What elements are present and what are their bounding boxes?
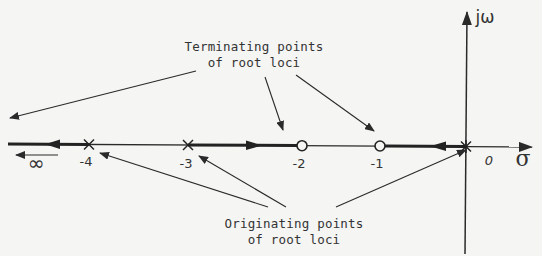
locus-segment-minus3-to-minus2: [188, 145, 297, 146]
infinity-label: ∞: [28, 151, 45, 175]
imaginary-axis-label: jω: [476, 7, 495, 27]
locus-arrow-left-infinity: [45, 140, 60, 150]
tick-label-minus3: -3: [180, 156, 193, 171]
originating-caption: Originating points of root loci: [224, 216, 363, 248]
zero-marker-minus2: [297, 141, 307, 151]
terminating-leader-to-minus1: [296, 75, 374, 131]
terminating-caption-line1: Terminating points: [184, 39, 323, 55]
locus-arrow-right-minus3-minus2: [246, 141, 262, 151]
locus-segment-0-to-minus1: [385, 146, 466, 147]
tick-label-minus4: -4: [80, 154, 93, 169]
originating-caption-line1: Originating points: [224, 216, 363, 232]
originating-caption-line2: of root loci: [224, 232, 363, 248]
terminating-leader-to-minus2: [265, 77, 283, 130]
real-axis-label: σ: [515, 146, 530, 171]
imaginary-axis: [465, 12, 467, 254]
tick-label-minus1: -1: [371, 156, 384, 171]
locus-arrow-left-0-minus1: [430, 142, 446, 152]
zero-marker-minus1: [375, 141, 385, 151]
originating-leader-to-0: [336, 150, 466, 207]
tick-label-minus2: -2: [293, 156, 306, 171]
terminating-caption-line2: of root loci: [184, 55, 323, 71]
terminating-caption: Terminating points of root loci: [184, 39, 323, 71]
origin-label: 0: [485, 153, 493, 168]
root-locus-figure: jω σ 0 ∞ -4 -3 -2 -1 Terminating points …: [0, 0, 542, 256]
terminating-leader-to-infinity: [10, 71, 196, 118]
